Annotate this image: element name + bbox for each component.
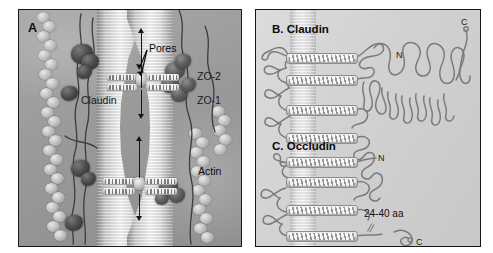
panel-a: A Pores Claudin ZO-2 ZO-1 Actin: [18, 9, 242, 247]
label-zo1: ZO-1: [197, 94, 221, 106]
pores-leader-lines: [19, 10, 241, 246]
label-claudin: Claudin: [81, 94, 117, 106]
label-zo2: ZO-2: [197, 70, 221, 82]
occludin-c-terminus-label: C: [416, 237, 423, 247]
figure-root: A Pores Claudin ZO-2 ZO-1 Actin B. Claud…: [0, 0, 493, 253]
panel-a-letter: A: [28, 21, 37, 35]
occludin-tm-helix-2: [286, 177, 358, 188]
occludin-tm-helix-3: [286, 205, 358, 216]
occludin-n-terminus-label: N: [378, 153, 385, 163]
occludin-tm-helix-4: [286, 231, 358, 242]
panel-bc: B. Claudin: [255, 9, 481, 247]
label-actin: Actin: [198, 165, 221, 177]
label-pores: Pores: [149, 42, 176, 54]
occludin-tail-length-label: 24-40 aa: [364, 208, 403, 219]
occludin-tm-helix-1: [286, 157, 358, 168]
